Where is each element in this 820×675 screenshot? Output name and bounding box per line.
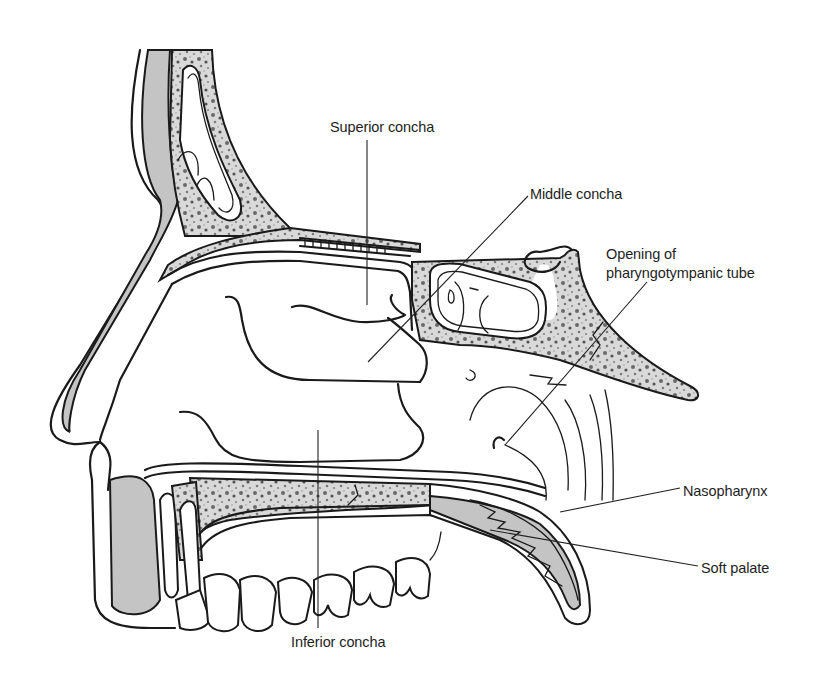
nasal-cavity-wall xyxy=(100,252,420,440)
nasal-cavity-diagram xyxy=(0,0,820,675)
soft-palate xyxy=(430,484,590,624)
conchae xyxy=(180,295,427,462)
label-opening-line1: Opening of xyxy=(606,246,676,263)
nose-external xyxy=(51,50,182,444)
upper-teeth xyxy=(176,532,441,631)
label-middle-concha: Middle concha xyxy=(530,186,622,203)
leader-nasopharynx xyxy=(560,488,680,512)
label-nasopharynx: Nasopharynx xyxy=(683,483,767,500)
label-superior-concha: Superior concha xyxy=(330,119,434,136)
label-inferior-concha: Inferior concha xyxy=(291,634,385,651)
label-opening-line2: pharyngotympanic tube xyxy=(606,265,755,282)
nasopharynx-region xyxy=(466,370,613,500)
label-soft-palate: Soft palate xyxy=(701,560,769,577)
frontal-sinus xyxy=(170,50,300,236)
